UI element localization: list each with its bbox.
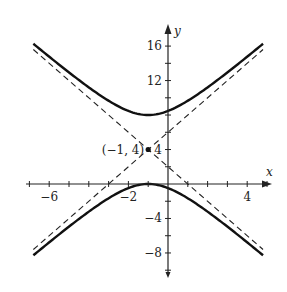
tick-labels: −6−2416124−4−8xy	[40, 24, 273, 260]
x-tick-label: −2	[120, 190, 138, 204]
y-tick-label: 16	[147, 39, 162, 53]
y-tick-label: 12	[147, 74, 162, 88]
y-tick-label: 4	[154, 143, 162, 157]
y-tick-label: −4	[144, 211, 162, 225]
x-tick-label: 4	[243, 190, 251, 204]
center-point-label: (−1, 4)	[102, 143, 144, 157]
x-axis-title: x	[266, 165, 273, 179]
hyperbola-plot: −6−2416124−4−8xy (−1, 4)	[0, 0, 287, 292]
y-axis-bottom-arrow-icon	[166, 272, 171, 278]
y-tick-label: −8	[144, 246, 162, 260]
y-axis-arrow-icon	[165, 24, 172, 34]
x-tick-label: −6	[40, 190, 58, 204]
y-axis-title: y	[173, 24, 181, 38]
center-point-dot	[146, 147, 151, 152]
center-point: (−1, 4)	[102, 143, 151, 157]
